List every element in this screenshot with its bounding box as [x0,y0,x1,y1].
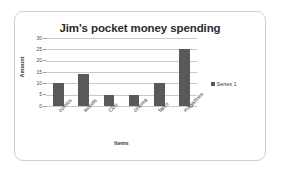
gridline [46,83,197,84]
y-axis-tick-labels: 30 25 20 15 10 5 0 [27,12,42,162]
x-axis-title: Items [46,140,197,146]
chart-legend: Series 1 [211,81,237,87]
gridline [46,61,197,62]
y-tick-label: 20 [29,58,42,63]
bar [179,49,190,106]
y-tick-label: 15 [29,70,42,75]
gridline [46,49,197,50]
y-tick-label: 30 [29,36,42,41]
gridline [46,95,197,96]
y-tick-label: 0 [29,104,42,109]
chart-container: Jim's pocket money spending Amount 30 25… [14,11,266,161]
legend-label: Series 1 [217,81,237,87]
bar [78,74,89,106]
y-tick-label: 5 [29,92,42,97]
y-axis-title: Amount [19,50,25,84]
gridline [46,106,197,107]
y-tick-label: 25 [29,47,42,52]
gridline [46,72,197,73]
gridline [46,38,197,39]
chart-title: Jim's pocket money spending [15,22,265,34]
legend-swatch-icon [211,82,215,86]
y-tick-label: 10 [29,81,42,86]
